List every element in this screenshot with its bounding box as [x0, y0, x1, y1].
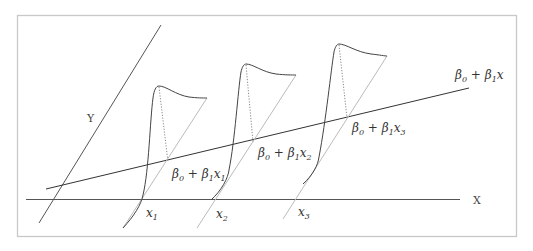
figure-frame [18, 16, 517, 237]
x1-mean-drop [159, 87, 168, 162]
y-axis-label: Y [86, 112, 95, 125]
x1-tick-label: x1 [146, 206, 158, 222]
x3-tick-label: x3 [298, 205, 310, 221]
x1-density-curve [123, 86, 207, 228]
x1-mean-label: β0 + β1x1 [171, 167, 226, 183]
conditional-distribution-x2: β0 + β1x2 x2 [197, 64, 312, 228]
conditional-distribution-x3: β0 + β1x3 x3 [283, 44, 406, 221]
x2-tick-label: x2 [216, 207, 228, 223]
x1-guide-line [123, 98, 207, 228]
regression-diagram: Y X β0 + β1x β0 + β1x1 x1 β0 + β1x2 x2 [0, 0, 533, 251]
x3-mean-label: β0 + β1x3 [351, 121, 406, 137]
x3-density-curve [303, 44, 387, 184]
x-axis-label: X [473, 194, 481, 207]
x3-mean-drop [339, 45, 347, 118]
x2-mean-drop [246, 65, 253, 142]
y-axis [39, 25, 161, 223]
x3-guide-line [283, 56, 387, 219]
regression-line-label: β0 + β1x [454, 68, 504, 84]
x2-mean-label: β0 + β1x2 [257, 146, 312, 162]
regression-line [46, 88, 469, 189]
